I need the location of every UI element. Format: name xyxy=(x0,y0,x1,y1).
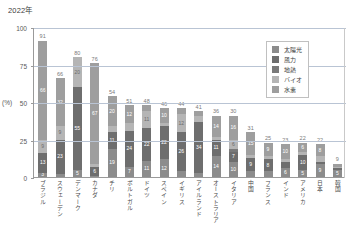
bar-segment: 23 xyxy=(56,140,65,175)
bar-segment: 9 xyxy=(264,143,273,157)
bar-column[interactable]: 89 xyxy=(264,143,273,178)
bar-segment xyxy=(177,171,186,177)
legend-item[interactable]: 風力 xyxy=(272,56,302,63)
bar-total-label: 31 xyxy=(248,125,254,131)
bar-segment: 13 xyxy=(38,153,47,173)
y-tick-label-100: 100 xyxy=(16,25,27,32)
x-tick-label: 韓国 xyxy=(333,180,339,192)
bar-segment: 12 xyxy=(177,114,186,132)
legend-label: バイオ xyxy=(284,77,302,83)
x-tick-label: 中国 xyxy=(247,180,253,192)
bar-total-label: 22 xyxy=(317,137,323,143)
legend-swatch-icon xyxy=(272,86,279,93)
bar-segment: 26 xyxy=(177,132,186,171)
chart-container: 2022年 0255075100 (%) 3139669123932665552… xyxy=(0,0,353,231)
bar-total-label: 76 xyxy=(92,56,98,62)
x-axis-labels: ブラジルスウェーデンデンマークカナダチリポルトガルドイツスペインイギリスアイルラ… xyxy=(33,180,345,231)
y-tick-label-25: 25 xyxy=(20,137,27,144)
bar-column[interactable]: 23932 xyxy=(56,78,65,177)
bar-segment: 22 xyxy=(160,126,169,159)
bar-segment: 14 xyxy=(212,156,221,177)
bar-column[interactable]: 98 xyxy=(316,144,325,177)
x-tick-label: イタリア xyxy=(229,180,235,205)
bar-segment: 11 xyxy=(212,140,221,157)
legend-item[interactable]: 太陽光 xyxy=(272,46,302,53)
legend: 太陽光風力地熱バイオ水素 xyxy=(266,41,309,98)
bar-segment: 10 xyxy=(160,108,169,123)
legend-label: 太陽光 xyxy=(284,47,302,53)
bar-segment: 8 xyxy=(264,159,273,171)
x-tick-label: デンマーク xyxy=(73,180,79,211)
bar-column[interactable]: 34 xyxy=(194,111,203,177)
legend-label: 風力 xyxy=(284,57,296,63)
bar-segment: 5 xyxy=(333,170,342,178)
bar-column[interactable]: 122210 xyxy=(160,108,169,177)
x-tick-label: 日本 xyxy=(316,180,322,192)
x-tick-label: ポルトガル xyxy=(125,180,131,211)
bar-total-label: 9 xyxy=(336,156,339,162)
plot-right-border xyxy=(344,28,345,178)
bar-total-label: 41 xyxy=(196,104,202,110)
bar-segment: 10 xyxy=(229,162,238,177)
x-tick-label: スウェーデン xyxy=(56,180,62,217)
bar-column[interactable]: 610 xyxy=(281,144,290,177)
legend-item[interactable]: バイオ xyxy=(272,76,302,83)
bar-column[interactable]: 107616 xyxy=(229,116,238,178)
bar-segment: 22 xyxy=(142,128,151,161)
bar-column[interactable]: 5 xyxy=(333,164,342,178)
bar-column[interactable]: 5106 xyxy=(298,143,307,178)
x-tick-label: ブラジル xyxy=(39,180,45,205)
bar-column[interactable]: 55520 xyxy=(73,57,82,177)
legend-item[interactable]: 地熱 xyxy=(272,66,302,73)
legend-swatch-icon xyxy=(272,66,279,73)
gridline-25 xyxy=(34,141,346,142)
bar-segment: 9 xyxy=(246,158,255,172)
bar-segment: 5 xyxy=(298,170,307,178)
bar-total-label: 80 xyxy=(74,50,80,56)
y-axis-unit-label: (%) xyxy=(2,99,12,106)
bar-segment: 6 xyxy=(281,168,290,177)
y-tick-label-0: 0 xyxy=(23,175,27,182)
bar-total-label: 23 xyxy=(282,137,288,143)
x-tick-label: スペイン xyxy=(160,180,166,205)
bar-segment: 24 xyxy=(125,131,134,167)
bar-segment: 20 xyxy=(73,57,82,87)
x-tick-label: オーストラリア xyxy=(212,180,218,223)
bar-column[interactable]: 313966 xyxy=(38,41,47,178)
bar-total-label: 30 xyxy=(230,108,236,114)
y-tick-label-50: 50 xyxy=(20,100,27,107)
bar-segment xyxy=(194,173,203,178)
bar-segment: 11 xyxy=(142,161,151,178)
bar-column[interactable]: 915 xyxy=(246,132,255,177)
bar-segment: 7 xyxy=(125,167,134,178)
bar-segment: 9 xyxy=(38,140,47,154)
bar-segment xyxy=(246,171,255,177)
bar-segment: 3 xyxy=(38,173,47,178)
bar-segment: 66 xyxy=(38,41,47,140)
bar-column[interactable]: 2612 xyxy=(177,108,186,177)
y-tick-label-75: 75 xyxy=(20,62,27,69)
bar-segment: 11 xyxy=(142,111,151,128)
legend-swatch-icon xyxy=(272,56,279,63)
x-tick-label: アメリカ xyxy=(299,180,305,205)
x-tick-label: カナダ xyxy=(91,180,97,199)
bar-segment: 10 xyxy=(281,144,290,159)
bar-segment: 34 xyxy=(194,122,203,173)
x-tick-label: アイルランド xyxy=(195,180,201,217)
bar-segment xyxy=(90,176,99,178)
legend-swatch-icon xyxy=(272,46,279,53)
bar-segment: 9 xyxy=(56,126,65,140)
bar-segment: 9 xyxy=(316,164,325,178)
legend-item[interactable]: 水素 xyxy=(272,86,302,93)
bar-segment: 10 xyxy=(298,155,307,170)
bar-segment xyxy=(264,171,273,177)
bar-segment: 12 xyxy=(160,159,169,177)
bar-segment: 7 xyxy=(229,152,238,163)
bar-segment xyxy=(125,123,134,131)
bar-column[interactable]: 667 xyxy=(90,63,99,177)
bar-segment: 55 xyxy=(73,87,82,170)
legend-label: 水素 xyxy=(284,87,296,93)
bar-column[interactable]: 191120 xyxy=(108,96,117,177)
bar-segment xyxy=(56,174,65,177)
bar-column[interactable]: 141114 xyxy=(212,116,221,178)
